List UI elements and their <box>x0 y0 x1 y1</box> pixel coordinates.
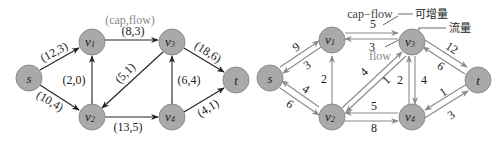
annotation-flow-cn: 流量 <box>449 21 471 35</box>
svg-text:t: t <box>476 73 480 88</box>
edge-label-v4-t: (4,1) <box>195 96 222 120</box>
node-t: t <box>465 67 491 93</box>
edge-label-t-v3: 6 <box>435 58 448 73</box>
edge-label-v3-t: 12 <box>443 39 461 57</box>
edge-label-v3-v1: 3 <box>369 40 375 54</box>
edge-label-v2-v4: (13,5) <box>114 120 143 134</box>
edge-label-t-v4: 1 <box>437 84 450 99</box>
edge-label-v2-v1: (2,0) <box>63 73 86 87</box>
edge-label-v2-v1: 2 <box>321 72 327 86</box>
node-v2: v2 <box>79 104 105 130</box>
edge-label-v2-s: 4 <box>300 81 313 96</box>
node-v3: v3 <box>399 29 425 55</box>
edge-label-v4-v2: 5 <box>371 99 377 113</box>
diagram-canvas: (cap,flow) (12,3) (10,4) (2,0) (8,3) (5,… <box>0 0 501 141</box>
edge-label-s-v1: 9 <box>290 39 303 54</box>
edge-label-v1-v3: 5 <box>370 17 376 31</box>
annotation-increment: 可增量 <box>415 7 448 21</box>
node-s: s <box>16 65 42 91</box>
edge-label-s-v1: (12,3) <box>38 39 70 65</box>
edge-label-v2-v3: 4 <box>357 65 371 79</box>
edge-label-v3-v4: 4 <box>421 73 427 87</box>
edge-v3-v2 <box>102 52 163 108</box>
edge-label-s-v2: 6 <box>284 96 297 111</box>
node-t: t <box>223 67 249 93</box>
svg-text:s: s <box>26 71 31 86</box>
edge-label-v1-v3: (8,3) <box>122 24 145 38</box>
node-v4: v4 <box>159 104 185 130</box>
edge-label-v4-v3: 2 <box>397 73 403 87</box>
node-v2: v2 <box>319 104 345 130</box>
node-v1: v1 <box>319 27 345 53</box>
node-v1: v1 <box>79 29 105 55</box>
edge-label-v1-s: 3 <box>301 57 314 72</box>
left-flow-network: (cap,flow) (12,3) (10,4) (2,0) (8,3) (5,… <box>16 13 249 134</box>
edge-label-v3-t: (18,6) <box>192 38 224 65</box>
edge-s-v1 <box>280 41 319 67</box>
svg-text:s: s <box>267 71 272 86</box>
node-v3: v3 <box>159 29 185 55</box>
edge-label-v4-t: 3 <box>445 107 458 122</box>
svg-text:t: t <box>234 73 238 88</box>
node-s: s <box>257 65 283 91</box>
edge-label-v2-v4: 8 <box>371 121 377 135</box>
edge-label-v3-v2: (5,1) <box>112 60 138 86</box>
right-residual-network: cap−flow 可增量 流量 flow 9 <box>257 7 491 136</box>
node-v4: v4 <box>399 104 425 130</box>
edge-label-v4-v3: (6,4) <box>178 73 201 87</box>
